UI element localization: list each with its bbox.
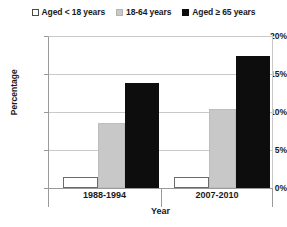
plot-area: [48, 36, 273, 188]
legend-label-under-18: Aged < 18 years: [42, 8, 105, 17]
chart-legend: Aged < 18 years 18-64 years Aged ≥ 65 ye…: [0, 8, 287, 17]
bar-2007-2010-over-65: [236, 56, 270, 188]
bar-1988-1994-under-18: [63, 177, 98, 188]
legend-item-under-18: Aged < 18 years: [32, 8, 105, 17]
x-category-label-2007-2010: 2007-2010: [161, 191, 273, 200]
bar-1988-1994-over-65: [125, 83, 159, 188]
legend-swatch-18-64-icon: [116, 9, 123, 16]
bar-1988-1994-18-64: [98, 123, 125, 188]
x-axis-title: Year: [48, 207, 273, 216]
bar-2007-2010-under-18: [174, 177, 209, 188]
legend-item-18-64: 18-64 years: [116, 8, 171, 17]
y-axis-title: Percentage: [10, 49, 19, 135]
x-category-label-1988-1994: 1988-1994: [48, 191, 161, 200]
legend-swatch-under-18-icon: [32, 9, 39, 16]
legend-label-over-65: Aged ≥ 65 years: [192, 8, 255, 17]
legend-label-18-64: 18-64 years: [126, 8, 171, 17]
bar-chart: Aged < 18 years 18-64 years Aged ≥ 65 ye…: [0, 0, 287, 227]
legend-item-over-65: Aged ≥ 65 years: [182, 8, 255, 17]
bar-2007-2010-18-64: [209, 109, 236, 188]
legend-swatch-over-65-icon: [182, 9, 189, 16]
